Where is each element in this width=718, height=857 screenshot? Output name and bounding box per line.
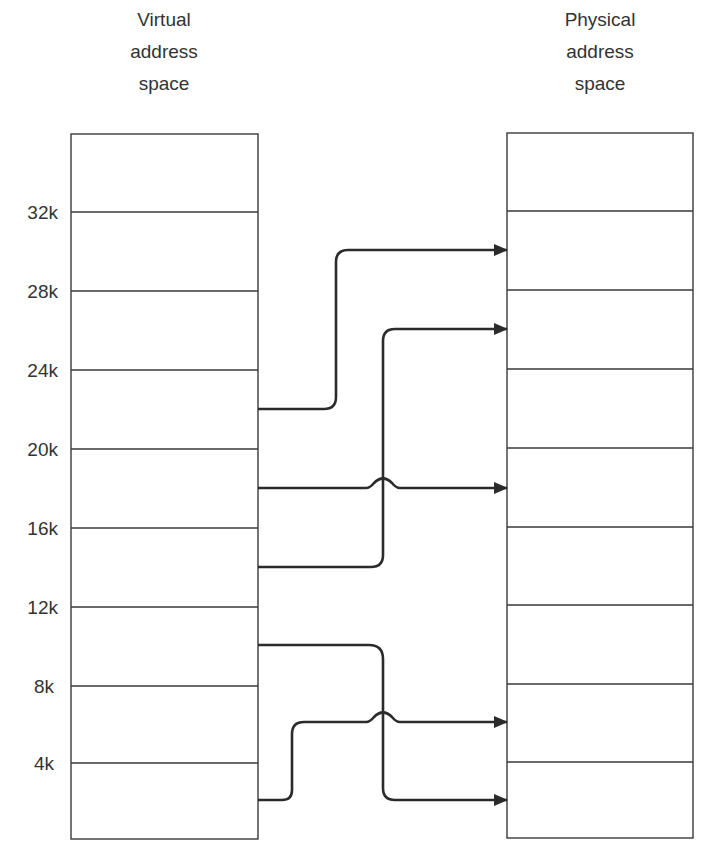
virtual-address-space-box (71, 134, 258, 839)
physical-address-space-box (507, 133, 693, 838)
mapping-arrow-12k-16k (258, 329, 507, 567)
mapping-diagram (0, 0, 718, 857)
